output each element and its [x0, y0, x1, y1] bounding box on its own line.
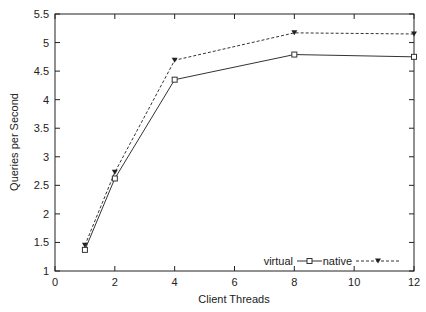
- y-tick-label: 2.5: [34, 179, 49, 191]
- y-tick-label: 1: [43, 265, 49, 277]
- y-tick-label: 1.5: [34, 236, 49, 248]
- x-tick-label: 4: [172, 276, 178, 288]
- triangle-marker-icon: [112, 170, 118, 175]
- axis-ticks: 02468101211.522.533.544.555.5: [34, 8, 420, 288]
- legend-item-native: native: [323, 255, 400, 267]
- x-tick-label: 6: [231, 276, 237, 288]
- y-tick-label: 5: [43, 37, 49, 49]
- y-axis-label: Queries per Second: [8, 93, 20, 191]
- plot-frame: [55, 14, 414, 271]
- series-virtual: [82, 52, 416, 252]
- series-line: [85, 55, 414, 250]
- data-series: [82, 30, 417, 252]
- y-tick-label: 3: [43, 151, 49, 163]
- legend: virtualnative: [264, 255, 400, 267]
- x-tick-label: 2: [112, 276, 118, 288]
- plot-border: [55, 14, 414, 271]
- y-tick-label: 3.5: [34, 122, 49, 134]
- square-marker-icon: [292, 52, 297, 57]
- series-line: [85, 33, 414, 245]
- x-tick-label: 12: [408, 276, 420, 288]
- series-native: [82, 30, 417, 247]
- y-tick-label: 2: [43, 208, 49, 220]
- x-axis-label: Client Threads: [198, 293, 270, 305]
- y-tick-label: 5.5: [34, 8, 49, 20]
- y-tick-label: 4.5: [34, 65, 49, 77]
- y-tick-label: 4: [43, 94, 49, 106]
- triangle-marker-icon: [375, 259, 381, 264]
- square-marker-icon: [412, 54, 417, 59]
- square-marker-icon: [112, 176, 117, 181]
- square-marker-icon: [172, 77, 177, 82]
- legend-label: virtual: [264, 255, 293, 267]
- x-tick-label: 8: [291, 276, 297, 288]
- line-chart: 02468101211.522.533.544.555.5 virtualnat…: [0, 0, 426, 312]
- square-marker-icon: [82, 247, 87, 252]
- legend-item-virtual: virtual: [264, 255, 322, 267]
- x-tick-label: 10: [348, 276, 360, 288]
- square-marker-icon: [307, 259, 312, 264]
- legend-label: native: [323, 255, 352, 267]
- x-tick-label: 0: [52, 276, 58, 288]
